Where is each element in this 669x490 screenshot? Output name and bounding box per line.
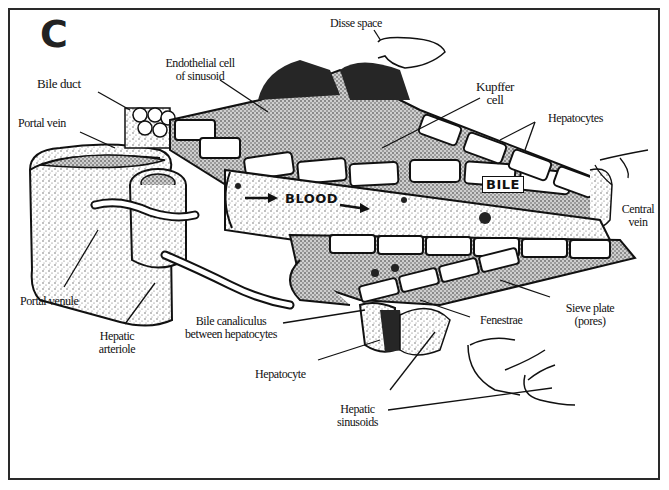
label-fenestrae: Fenestrae <box>480 314 522 327</box>
bile-label: BILE <box>482 176 524 193</box>
label-hepatic-sinusoids: Hepatic sinusoids <box>330 403 385 429</box>
lower-hepatocyte-plate <box>290 235 635 305</box>
label-kupffer-line2: cell <box>470 93 520 106</box>
label-portal-vein: Portal vein <box>18 117 66 130</box>
label-canaliculus-line2: between hepatocytes <box>172 328 290 341</box>
label-hepatocyte: Hepatocyte <box>255 368 306 381</box>
label-kupffer-cell: Kupffer cell <box>470 80 520 106</box>
label-hepatocytes: Hepatocytes <box>548 112 603 125</box>
hepatocyte-block <box>360 303 450 355</box>
label-portal-venule: Portal venule <box>20 295 78 308</box>
label-disse-space: Disse space <box>330 17 382 30</box>
label-hepatic-arteriole: Hepatic arteriole <box>92 330 142 356</box>
label-sinusoids-line2: sinusoids <box>330 416 385 429</box>
disse-space-shape <box>378 38 445 69</box>
sinusoid-outline <box>468 338 575 405</box>
label-endothelial-line2: of sinusoid <box>140 70 260 83</box>
bile-duct-shape <box>125 108 175 148</box>
label-bile-canaliculus: Bile canaliculus between hepatocytes <box>172 315 290 341</box>
label-sieve-plate: Sieve plate (pores) <box>560 302 620 328</box>
panel-letter: C <box>40 14 68 54</box>
label-endothelial-cell: Endothelial cell of sinusoid <box>140 57 260 83</box>
label-central-vein: Central vein <box>618 203 658 229</box>
label-arteriole-line2: arteriole <box>92 343 142 356</box>
label-sieve-line2: (pores) <box>560 315 620 328</box>
label-central-line2: vein <box>618 216 658 229</box>
blood-label: BLOOD <box>285 191 338 206</box>
label-bile-duct: Bile duct <box>37 77 81 90</box>
